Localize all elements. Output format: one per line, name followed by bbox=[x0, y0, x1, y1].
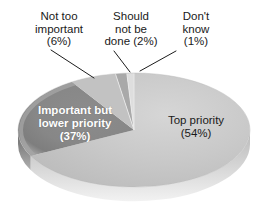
callout-should-not-be-done: Should not be done (2%) bbox=[89, 10, 173, 48]
slice-label-top-priority-value: (54%) bbox=[150, 127, 242, 140]
leader-line-should-not-be-done bbox=[114, 51, 130, 72]
pie-chart: Not too important (6%) Should not be don… bbox=[0, 0, 268, 210]
callout-not-too-important: Not too important (6%) bbox=[18, 10, 100, 48]
callout-dont-know-value: (1%) bbox=[163, 35, 229, 48]
slice-label-top-priority-line1: Top priority bbox=[150, 114, 242, 127]
leader-line-not-too-important bbox=[51, 50, 94, 78]
slice-label-important-lower-line1: Important but bbox=[22, 104, 128, 117]
callout-not-too-important-line1: Not too bbox=[18, 10, 100, 23]
slice-label-important-lower: Important but lower priority (37%) bbox=[22, 104, 128, 144]
callout-should-not-be-done-value: done (2%) bbox=[89, 35, 173, 48]
callout-dont-know-line2: know bbox=[163, 23, 229, 36]
callout-not-too-important-line2: important bbox=[18, 23, 100, 36]
slice-label-top-priority: Top priority (54%) bbox=[150, 114, 242, 140]
callout-should-not-be-done-line2: not be bbox=[89, 23, 173, 36]
callout-not-too-important-value: (6%) bbox=[18, 35, 100, 48]
callout-dont-know-line1: Don't bbox=[163, 10, 229, 23]
slice-label-important-lower-line2: lower priority bbox=[22, 117, 128, 130]
leader-line-dont-know bbox=[140, 51, 176, 71]
callout-should-not-be-done-line1: Should bbox=[89, 10, 173, 23]
slice-label-important-lower-value: (37%) bbox=[22, 130, 128, 143]
callout-dont-know: Don't know (1%) bbox=[163, 10, 229, 48]
